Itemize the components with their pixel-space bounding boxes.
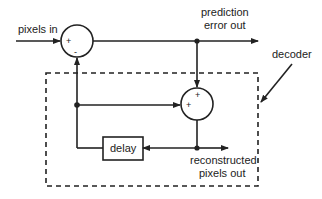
plus-sign-left: +: [186, 100, 191, 110]
minus-sign: -: [74, 47, 77, 57]
plus-sign: +: [66, 36, 71, 46]
delay-label: delay: [110, 142, 137, 154]
pixels-in-label: pixels in: [18, 23, 58, 35]
prediction-feedback-line: [74, 102, 180, 108]
delay-block: delay: [103, 137, 143, 160]
adder-node: + +: [181, 88, 213, 120]
subtractor-node: + -: [61, 25, 93, 57]
prediction-error-line: [93, 38, 258, 43]
reconstructed-label-2: pixels out: [199, 167, 245, 179]
decoder-label: decoder: [272, 48, 312, 60]
predictive-coding-diagram: pixels in + - prediction error out + + d…: [0, 0, 322, 199]
prediction-error-label-2: error out: [204, 19, 246, 31]
plus-sign-top: +: [195, 90, 200, 100]
reconstructed-output-line: [143, 145, 228, 150]
decoder-pointer-arrow: [261, 64, 292, 102]
reconstructed-label-1: reconstructed: [190, 154, 257, 166]
prediction-error-label-1: prediction: [201, 6, 249, 18]
